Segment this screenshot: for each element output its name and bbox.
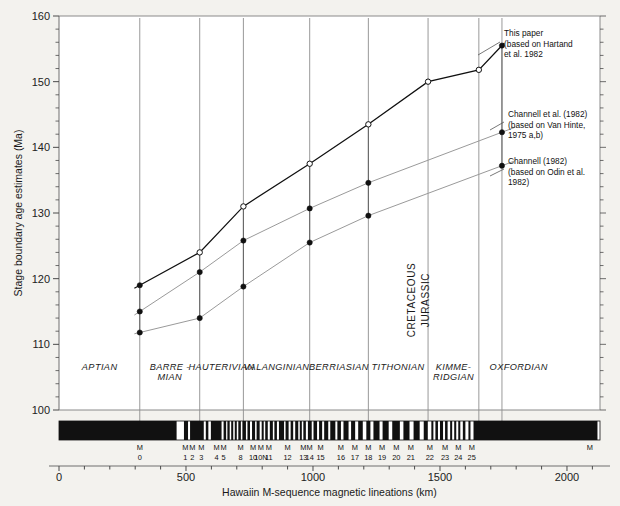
period-label: CRETACEOUS [406, 263, 417, 338]
magnetic-anomaly-name: M [365, 443, 371, 452]
magnetic-block [286, 421, 289, 440]
data-point [137, 309, 142, 314]
magnetic-block [319, 421, 322, 440]
magnetic-block [358, 421, 363, 440]
magnetic-anomaly-name: M [427, 443, 433, 452]
x-tick-label: 1500 [428, 471, 452, 483]
annotation-text: 1982) [508, 177, 529, 187]
data-point [307, 240, 312, 245]
data-point-open [197, 250, 202, 255]
magnetic-block [274, 421, 277, 440]
magnetic-block [435, 421, 438, 440]
period-label: JURASSIC [420, 273, 431, 327]
data-point [307, 206, 312, 211]
magnetic-block [337, 421, 341, 440]
magnetic-block [59, 421, 177, 440]
magnetic-anomaly-name: M [213, 443, 219, 452]
magnetic-anomaly-number: 0 [138, 453, 142, 462]
magnetic-anomaly-number: 25 [468, 453, 476, 462]
annotation-text: This paper [504, 28, 543, 38]
annotation-text: (based on Odin et al. [508, 167, 585, 177]
x-tick-label: 500 [177, 471, 195, 483]
y-tick-label: 150 [32, 76, 50, 88]
data-point [241, 238, 246, 243]
magnetic-block [343, 421, 348, 440]
magnetic-anomaly-name: M [442, 443, 448, 452]
magnetic-block [308, 421, 312, 440]
magnetic-anomaly-name: M [352, 443, 358, 452]
annotation-text: 1975 a,b) [508, 130, 543, 140]
magnetic-block [468, 421, 470, 440]
data-point [499, 130, 504, 135]
magnetic-anomaly-name: M [408, 443, 414, 452]
magnetic-anomaly-number: 5 [222, 453, 226, 462]
magnetic-anomaly-name: M [587, 443, 593, 452]
magnetic-block [313, 421, 317, 440]
magnetic-block [414, 421, 420, 440]
data-point [137, 283, 142, 288]
magnetic-block [242, 421, 246, 440]
x-tick-label: 0 [56, 471, 62, 483]
magnetic-block [366, 421, 370, 440]
magnetic-anomaly-number: 11 [265, 453, 273, 462]
magnetic-anomaly-number: 16 [337, 453, 345, 462]
magnetic-anomaly-number: 18 [364, 453, 372, 462]
magnetic-anomaly-number: 17 [351, 453, 359, 462]
magnetic-block [262, 421, 264, 440]
data-point-open [307, 161, 312, 166]
magnetic-block [300, 421, 302, 440]
magnetic-anomaly-number: 24 [454, 453, 462, 462]
magnetic-anomaly-name: M [198, 443, 204, 452]
stage-label: TITHONIAN [372, 362, 425, 372]
magnetic-block [303, 421, 306, 440]
magnetic-anomaly-number: 22 [426, 453, 434, 462]
data-point [197, 270, 202, 275]
magnetostratigraphy-chart: 100110120130140150160Stage boundary age … [0, 0, 620, 506]
data-point [137, 330, 142, 335]
y-tick-label: 120 [32, 273, 50, 285]
magnetic-anomaly-name: M [338, 443, 344, 452]
magnetic-anomaly-name: M [258, 443, 264, 452]
data-point-open [476, 67, 481, 72]
magnetic-anomaly-name: M [250, 443, 256, 452]
magnetic-block [265, 421, 268, 440]
magnetic-anomaly-name: M [379, 443, 385, 452]
magnetic-block [257, 421, 260, 440]
magnetic-anomaly-name: M [300, 443, 306, 452]
data-point-open [366, 122, 371, 127]
magnetic-block [184, 421, 188, 440]
magnetic-anomaly-name: M [318, 443, 324, 452]
stage-label: MIAN [157, 372, 182, 382]
x-tick-label: 2000 [555, 471, 579, 483]
magnetic-block [190, 421, 204, 440]
magnetic-block [450, 421, 452, 440]
magnetic-block [373, 421, 379, 440]
magnetic-anomaly-name: M [220, 443, 226, 452]
magnetic-block [224, 421, 227, 440]
magnetic-anomaly-name: M [455, 443, 461, 452]
annotation-text: (based on Hartand [504, 39, 573, 49]
magnetic-block [392, 421, 400, 440]
annotation-text: (based on Van Hinte, [508, 120, 585, 130]
y-axis-title: Stage boundary age estimates (Ma) [12, 130, 24, 297]
magnetic-block [206, 421, 209, 440]
magnetic-block [454, 421, 456, 440]
magnetic-anomaly-name: M [307, 443, 313, 452]
magnetic-anomaly-number: 23 [441, 453, 449, 462]
annotation-text: Channell et al. (1982) [508, 109, 588, 119]
data-point-open [241, 204, 246, 209]
magnetic-anomaly-name: M [189, 443, 195, 452]
magnetic-anomaly-number: 2 [190, 453, 194, 462]
y-tick-label: 140 [32, 141, 50, 153]
annotation-text: et al. 1982 [504, 49, 543, 59]
stage-label: RIDGIAN [433, 372, 474, 382]
x-tick-label: 1000 [301, 471, 325, 483]
magnetic-block [458, 421, 460, 440]
y-tick-label: 110 [32, 338, 50, 350]
magnetic-anomaly-number: 3 [199, 453, 203, 462]
data-point [366, 180, 371, 185]
magnetic-anomaly-number: 19 [378, 453, 386, 462]
magnetic-anomaly-name: M [238, 443, 244, 452]
data-point [197, 315, 202, 320]
magnetic-anomaly-number: 8 [239, 453, 243, 462]
